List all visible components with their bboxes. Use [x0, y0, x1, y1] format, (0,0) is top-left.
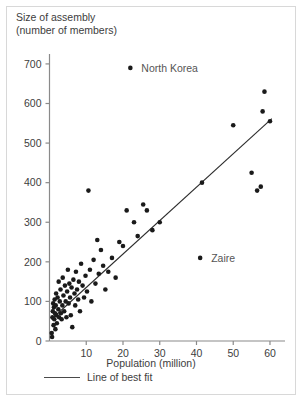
svg-text:0: 0: [36, 335, 42, 347]
svg-text:300: 300: [24, 216, 42, 228]
legend-label: Line of best fit: [87, 371, 152, 383]
point-annotations: North KoreaZaire: [141, 62, 235, 264]
legend-line-swatch: [44, 377, 80, 378]
svg-text:400: 400: [24, 176, 42, 188]
legend: Line of best fit: [44, 371, 152, 383]
svg-text:North Korea: North Korea: [141, 62, 198, 74]
x-axis-caption: Population (million): [0, 357, 302, 369]
svg-text:Zaire: Zaire: [211, 252, 235, 264]
svg-text:500: 500: [24, 137, 42, 149]
data-points: [49, 66, 272, 340]
svg-text:200: 200: [24, 256, 42, 268]
svg-text:600: 600: [24, 97, 42, 109]
scatter-plot-figure: Size of assembly (number of members) 010…: [0, 0, 302, 401]
plot-area: 0100200300400500600700102030405060 North…: [0, 0, 302, 401]
svg-text:700: 700: [24, 58, 42, 70]
line-of-best-fit: [51, 119, 271, 320]
svg-text:100: 100: [24, 295, 42, 307]
